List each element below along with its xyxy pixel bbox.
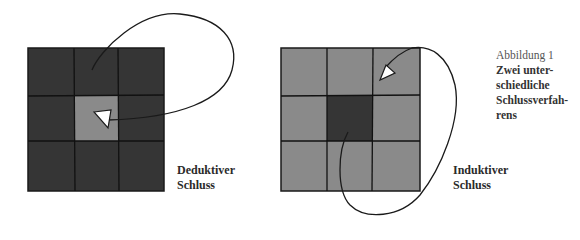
caption-line-3: Schlussverfah-: [496, 93, 568, 108]
figure-caption: Abbildung 1 Zwei unter- schiedliche Schl…: [496, 48, 568, 123]
deductive-label: Deduktiver Schluss: [177, 163, 235, 193]
deductive-label-line-1: Deduktiver: [177, 163, 235, 178]
caption-line-4: rens: [496, 108, 568, 123]
caption-line-2: schiedliche: [496, 78, 568, 93]
deductive-label-line-2: Schluss: [177, 178, 235, 193]
inductive-label-line-2: Schluss: [453, 178, 508, 193]
deductive-grid: [28, 48, 164, 191]
inductive-grid: [281, 48, 420, 191]
caption-line-1: Zwei unter-: [496, 63, 568, 78]
inductive-label: Induktiver Schluss: [453, 163, 508, 193]
inductive-label-line-1: Induktiver: [453, 163, 508, 178]
caption-title: Abbildung 1: [496, 48, 568, 63]
